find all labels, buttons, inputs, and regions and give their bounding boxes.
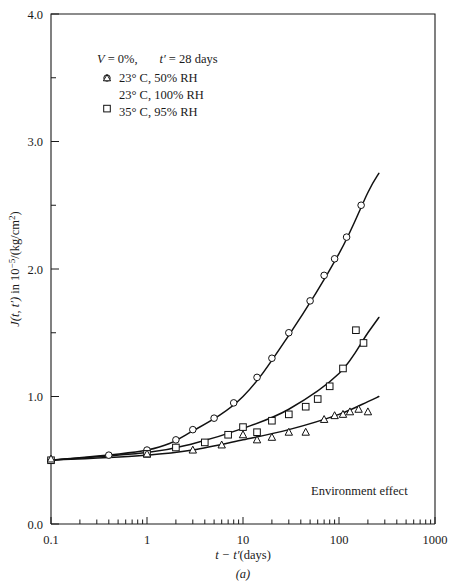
data-point-circle xyxy=(321,272,328,279)
figure-caption-text: (a) xyxy=(236,567,251,581)
data-point-circle xyxy=(211,415,218,422)
data-point-circle xyxy=(269,355,276,362)
x-tick-label: 0.1 xyxy=(43,533,59,547)
data-point-circle xyxy=(343,234,350,241)
y-axis-label-rest: in 10 xyxy=(8,268,22,296)
data-point-circle xyxy=(105,452,112,459)
y-axis-label-tail: /(kg/cm xyxy=(8,220,22,259)
data-point-triangle xyxy=(302,428,309,435)
y-tick-label: 0.0 xyxy=(27,518,43,532)
y-tick-label: 1.0 xyxy=(27,390,43,404)
y-axis-label-fn: J(t, t′) xyxy=(8,297,22,327)
plot-frame xyxy=(51,14,435,524)
data-point-circle xyxy=(173,437,180,444)
figure-caption: (a) xyxy=(236,567,251,581)
data-point-square xyxy=(302,403,309,410)
data-point-square xyxy=(240,424,247,431)
data-point-triangle xyxy=(364,408,371,415)
legend-tprime-symbol: t′ xyxy=(160,52,166,66)
y-axis-label: J(t, t′) in 10−5/(kg/cm2) xyxy=(7,211,22,326)
x-tick-label: 10 xyxy=(237,533,250,547)
data-point-square xyxy=(326,383,333,390)
data-point-square xyxy=(201,439,208,446)
data-point-circle xyxy=(190,426,197,433)
legend-header: V= 0%,t′= 28 days xyxy=(97,52,218,66)
data-point-circle xyxy=(286,329,293,336)
x-axis-ticks xyxy=(51,517,435,524)
y-axis-ticks xyxy=(51,14,59,524)
legend-v-symbol: V xyxy=(97,52,106,66)
y-axis-tick-labels: 0.01.02.03.04.0 xyxy=(27,8,43,532)
series-markers xyxy=(47,202,371,464)
data-point-square xyxy=(340,365,347,372)
x-axis-label: t − t′(days) xyxy=(215,548,271,562)
x-tick-label: 1 xyxy=(144,533,150,547)
x-axis-label-symbol: t − t′ xyxy=(215,548,240,562)
data-point-circle xyxy=(254,374,261,381)
x-axis-label-unit: (days) xyxy=(240,548,271,562)
y-axis-label-exp: −5 xyxy=(7,258,17,268)
data-point-triangle xyxy=(239,431,246,438)
legend-label-0: 23° C, 50% RH xyxy=(119,71,198,85)
legend-v-value: = 0%, xyxy=(108,52,138,66)
x-axis-tick-labels: 0.11101001000 xyxy=(43,533,447,547)
data-point-square xyxy=(225,431,232,438)
data-point-circle xyxy=(230,400,237,407)
x-tick-label: 1000 xyxy=(423,533,448,547)
data-point-square xyxy=(360,340,367,347)
data-point-circle xyxy=(358,202,365,209)
legend-tprime-value: = 28 days xyxy=(169,52,218,66)
series-line-triangle xyxy=(51,397,379,461)
data-point-triangle xyxy=(355,405,362,412)
chart-canvas: 0.11101001000 0.01.02.03.04.0 V= 0%,t′= … xyxy=(0,0,450,587)
data-point-square xyxy=(353,327,360,334)
data-point-square xyxy=(254,429,261,436)
x-tick-label: 100 xyxy=(330,533,349,547)
data-point-square xyxy=(314,396,321,403)
data-point-circle xyxy=(307,298,314,305)
data-point-square xyxy=(173,444,180,451)
y-tick-label: 2.0 xyxy=(27,263,43,277)
y-tick-label: 4.0 xyxy=(27,8,43,22)
legend-label-2: 35° C, 95% RH xyxy=(119,105,198,119)
data-point-square xyxy=(269,417,276,424)
legend: V= 0%,t′= 28 days 23° C, 50% RH 23° C, 1… xyxy=(97,52,218,119)
legend-marker-square xyxy=(104,105,111,112)
figure-container: 0.11101001000 0.01.02.03.04.0 V= 0%,t′= … xyxy=(0,0,450,587)
y-tick-label: 3.0 xyxy=(27,135,43,149)
annotation-environment-effect: Environment effect xyxy=(311,484,408,498)
data-point-circle xyxy=(331,255,338,262)
data-point-square xyxy=(286,411,293,418)
y-axis-label-close: ) xyxy=(8,211,22,215)
legend-label-1: 23° C, 100% RH xyxy=(119,88,204,102)
